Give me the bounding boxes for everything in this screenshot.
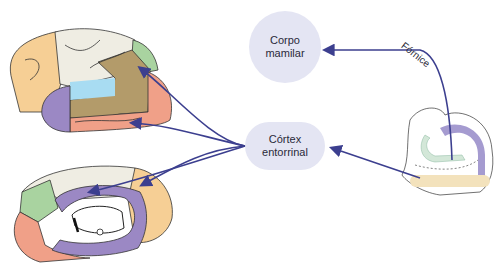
hippocampus-figure bbox=[402, 108, 493, 195]
thalamus bbox=[72, 206, 124, 233]
mammillary-body-label: Corpo mamilar bbox=[249, 34, 321, 60]
beige-layer bbox=[410, 175, 490, 187]
lateral-brain-figure bbox=[10, 29, 171, 132]
entorhinal-cortex-label: Córtex entorrinal bbox=[245, 133, 325, 159]
